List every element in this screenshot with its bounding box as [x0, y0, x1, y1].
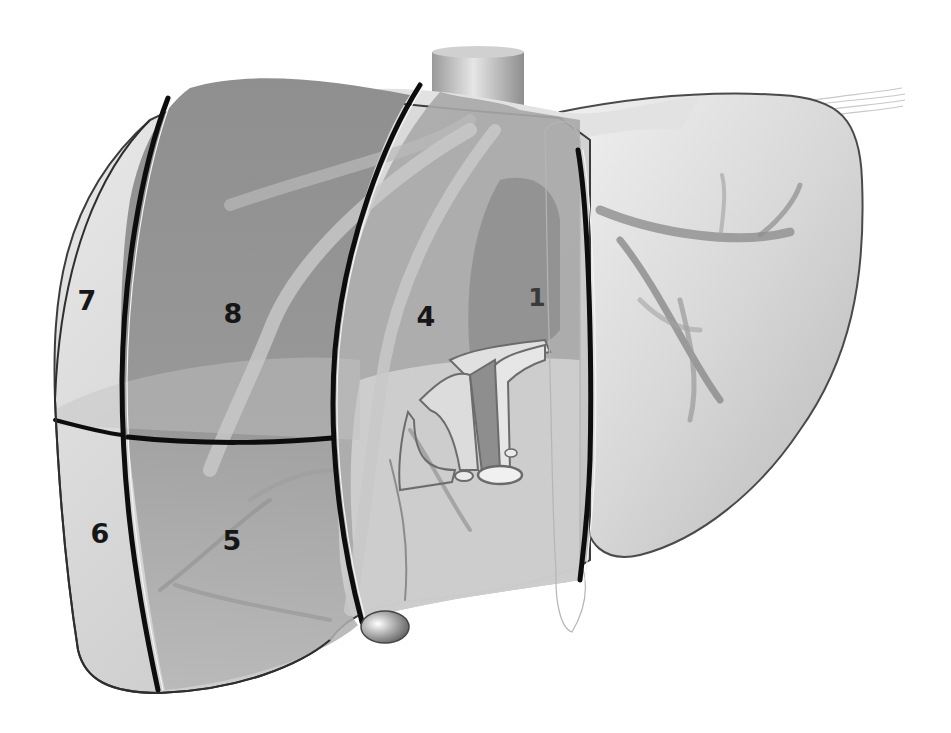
left-lobe: [560, 94, 863, 557]
segment-label-4: 4: [417, 303, 436, 330]
gallbladder: [361, 611, 409, 643]
liver-illustration: [0, 0, 951, 733]
liver-segments-diagram: 7 8 4 1 6 5: [0, 0, 951, 733]
segment-label-6: 6: [91, 520, 110, 547]
segment-label-5: 5: [223, 527, 242, 554]
segment-label-1: 1: [528, 285, 545, 310]
segment-label-7: 7: [78, 287, 97, 314]
segment-label-8: 8: [224, 300, 243, 327]
segment-5-region: [128, 440, 358, 690]
